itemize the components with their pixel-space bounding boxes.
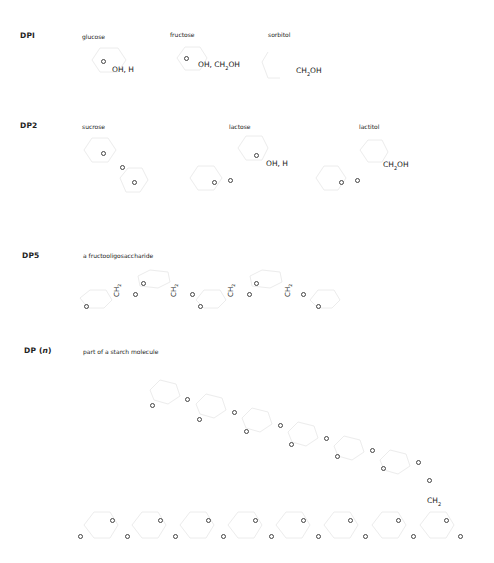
ring-oxygen: [101, 151, 106, 156]
ring-oxygen: [254, 153, 259, 158]
row-label-dp1: DPI: [20, 31, 35, 40]
row-label-dp5: DP5: [22, 251, 40, 260]
ring-oxygen: [269, 534, 274, 539]
ring-oxygen: [301, 518, 306, 523]
ring-oxygen: [232, 410, 237, 415]
substituent-sorbitol: CH2OH: [296, 66, 322, 77]
ring-oxygen: [101, 59, 106, 64]
substituent-glucose: OH, H: [112, 65, 134, 74]
ring-outlines: [0, 0, 494, 563]
ring-oxygen: [185, 397, 190, 402]
ring-oxygen: [184, 56, 189, 61]
ring-oxygen: [84, 304, 89, 309]
molecule-name-starch: part of a starch molecule: [83, 348, 158, 355]
ring-oxygen: [253, 518, 258, 523]
ring-oxygen: [173, 534, 178, 539]
ring-oxygen: [141, 281, 146, 286]
ring-oxygen: [125, 534, 130, 539]
molecule-name-sucrose: sucrose: [82, 123, 105, 130]
ring-oxygen: [316, 534, 321, 539]
row-label-dpn: DP (n): [24, 346, 52, 355]
ring-oxygen: [355, 178, 360, 183]
ring-oxygen: [348, 518, 353, 523]
ring-oxygen: [197, 417, 202, 422]
ring-oxygen: [324, 436, 329, 441]
molecule-name-sorbitol: sorbitol: [268, 31, 290, 38]
ring-oxygen: [78, 534, 83, 539]
bridge-ch2: CH2: [113, 284, 122, 297]
ring-oxygen: [158, 518, 163, 523]
branch-ch2: CH2: [427, 496, 441, 507]
ring-oxygen: [212, 180, 217, 185]
bridge-ch2: CH2: [170, 284, 179, 297]
ring-oxygen: [411, 534, 416, 539]
ring-oxygen: [228, 178, 233, 183]
ring-oxygen: [254, 281, 259, 286]
ring-oxygen: [416, 460, 421, 465]
row-label-dp2: DP2: [20, 121, 38, 130]
ring-oxygen: [133, 292, 138, 297]
ring-oxygen: [339, 180, 344, 185]
molecule-name-fructooligosaccharide: a fructooligosaccharide: [83, 252, 153, 259]
ring-oxygen: [244, 429, 249, 434]
ring-oxygen: [206, 518, 211, 523]
substituent-fructose: OH, CH2OH: [198, 60, 240, 71]
ring-oxygen: [289, 442, 294, 447]
molecule-name-fructose: fructose: [170, 31, 195, 38]
ring-oxygen: [190, 292, 195, 297]
molecule-name-glucose: glucose: [82, 33, 105, 40]
ring-oxygen: [427, 478, 432, 483]
bridge-ch2: CH2: [227, 284, 236, 297]
ring-oxygen: [198, 304, 203, 309]
ring-oxygen: [221, 534, 226, 539]
ring-oxygen: [396, 518, 401, 523]
ring-oxygen: [316, 304, 321, 309]
ring-oxygen: [247, 292, 252, 297]
ring-oxygen: [278, 423, 283, 428]
substituent-lactose: OH, H: [266, 159, 288, 168]
ring-oxygen: [120, 165, 125, 170]
bridge-ch2: CH2: [284, 284, 293, 297]
ring-oxygen: [444, 518, 449, 523]
ring-oxygen: [150, 403, 155, 408]
ring-oxygen: [458, 534, 463, 539]
ring-oxygen: [110, 518, 115, 523]
ring-oxygen: [301, 292, 306, 297]
substituent-lactitol: CH2OH: [383, 160, 409, 171]
ring-oxygen: [363, 534, 368, 539]
ring-oxygen: [132, 180, 137, 185]
ring-oxygen: [381, 466, 386, 471]
ring-oxygen: [370, 448, 375, 453]
molecule-name-lactose: lactose: [229, 123, 250, 130]
ring-oxygen: [335, 454, 340, 459]
molecule-name-lactitol: lactitol: [359, 123, 379, 130]
